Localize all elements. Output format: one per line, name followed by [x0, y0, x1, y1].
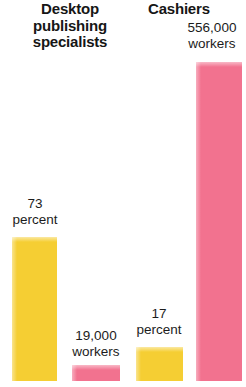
- bar-desktop-publishing-workers: [72, 365, 120, 381]
- bar-cashiers-percent: [136, 347, 183, 381]
- group-title-desktop-publishing-specialists: Desktop publishing specialists: [8, 1, 132, 51]
- bar-desktop-publishing-percent: [12, 237, 57, 381]
- bar-label-desktop-publishing-percent: 73 percent: [4, 196, 66, 228]
- bar-label-cashiers-workers: 556,000 workers: [180, 20, 244, 52]
- bar-cashiers-workers: [196, 62, 242, 381]
- group-title-cashiers: Cashiers: [128, 1, 242, 18]
- bar-chart: Desktop publishing specialists Cashiers …: [0, 0, 246, 387]
- bar-label-cashiers-percent: 17 percent: [128, 306, 190, 338]
- bar-label-desktop-publishing-workers: 19,000 workers: [64, 328, 128, 360]
